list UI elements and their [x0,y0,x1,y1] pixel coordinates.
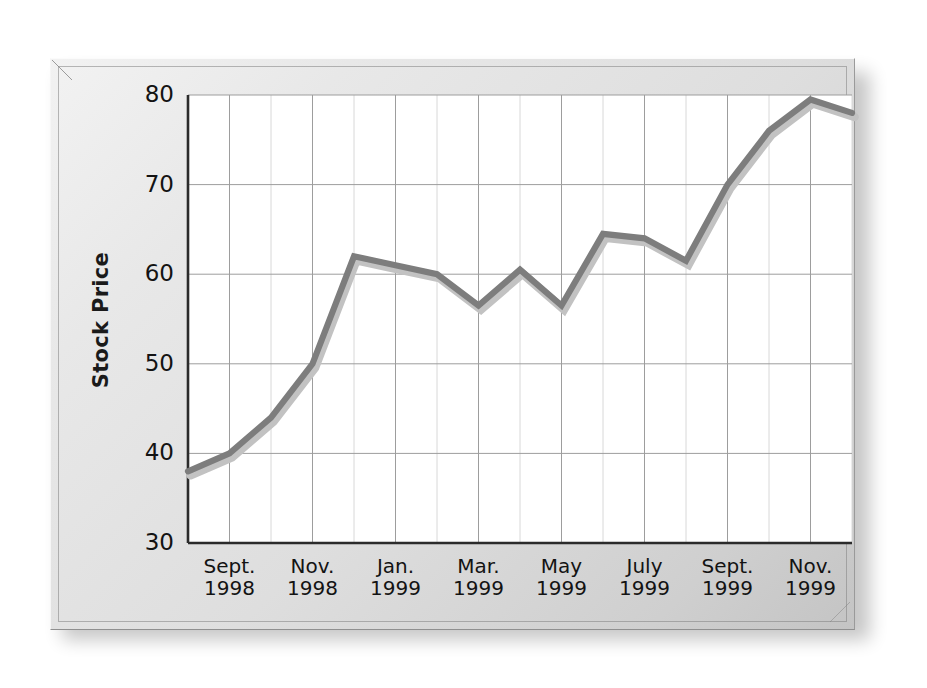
line-chart: Stock Price 304050607080 Sept.1998Nov.19… [0,0,927,688]
y-axis-tick-label: 70 [126,173,174,196]
x-tick-year: 1999 [751,577,871,599]
y-axis-tick-label: 40 [126,441,174,464]
x-tick-month: Nov. [751,555,871,577]
y-axis-tick-label: 50 [126,352,174,375]
y-axis-title: Stock Price [89,210,113,430]
figure-root: Stock Price 304050607080 Sept.1998Nov.19… [0,0,927,688]
x-axis-tick-label: Nov.1999 [751,555,871,600]
y-axis-tick-label: 80 [126,83,174,106]
y-axis-tick-label: 30 [126,531,174,554]
y-axis-tick-label: 60 [126,262,174,285]
